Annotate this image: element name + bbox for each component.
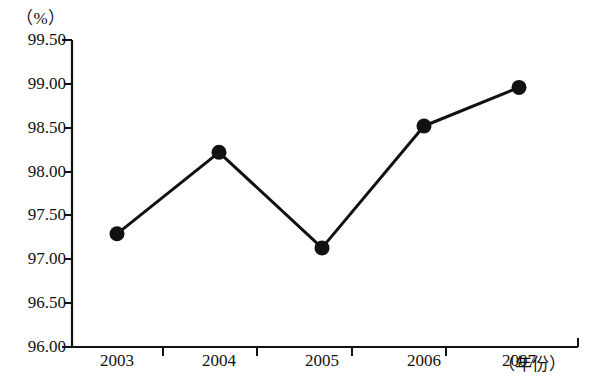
x-tick-label-2006: 2006: [407, 352, 441, 369]
data-line: [117, 87, 519, 248]
data-point-markers: [110, 80, 527, 256]
data-point[interactable]: [212, 145, 227, 160]
x-tick-label-2003: 2003: [100, 352, 134, 369]
x-axis-title: （年份）: [498, 350, 566, 375]
line-chart: （%） 99.50 99.00 98.50 98.00 97.50 97.00 …: [0, 0, 613, 379]
data-point[interactable]: [417, 119, 432, 134]
data-point[interactable]: [512, 80, 527, 95]
data-point[interactable]: [110, 226, 125, 241]
plot-area: [0, 0, 613, 379]
data-point[interactable]: [315, 240, 330, 255]
x-tick-label-2005: 2005: [305, 352, 339, 369]
x-tick-label-2004: 2004: [202, 352, 236, 369]
y-axis-ticks: [62, 40, 72, 347]
